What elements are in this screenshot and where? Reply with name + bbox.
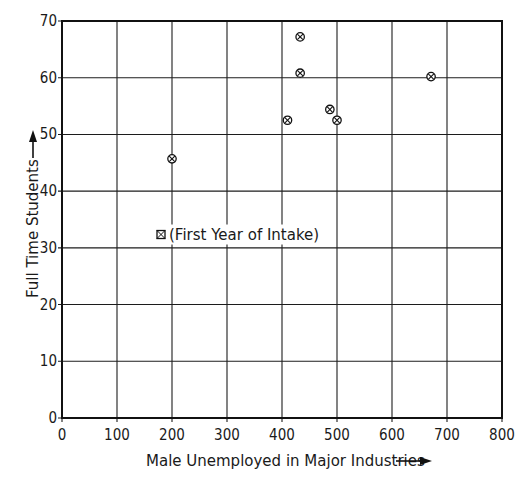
x-axis-ticks: 0100200300400500600700800 bbox=[58, 426, 515, 444]
x-tick-label: 0 bbox=[58, 426, 67, 444]
x-tick-label: 700 bbox=[434, 426, 460, 444]
grid-lines bbox=[58, 21, 502, 422]
circled-x-marker bbox=[333, 116, 341, 124]
y-tick-label: 0 bbox=[48, 409, 57, 427]
y-axis-ticks: 010203040506070 bbox=[40, 12, 57, 427]
legend-label: (First Year of Intake) bbox=[169, 226, 319, 244]
y-tick-label: 30 bbox=[40, 239, 57, 257]
circled-x-marker bbox=[296, 33, 304, 41]
x-axis-title: Male Unemployed in Major Industries bbox=[146, 452, 432, 470]
circled-x-marker bbox=[168, 155, 176, 163]
legend: (First Year of Intake) bbox=[155, 225, 319, 245]
data-points bbox=[168, 33, 435, 163]
y-tick-label: 60 bbox=[40, 69, 57, 87]
scatter-chart: 0100200300400500600700800 01020304050607… bbox=[0, 0, 527, 478]
circled-x-marker bbox=[326, 105, 334, 113]
y-tick-label: 20 bbox=[40, 296, 57, 314]
x-tick-label: 800 bbox=[489, 426, 515, 444]
x-tick-label: 300 bbox=[214, 426, 240, 444]
y-tick-label: 70 bbox=[40, 12, 57, 30]
x-tick-label: 200 bbox=[159, 426, 185, 444]
boxed-x-icon bbox=[157, 231, 165, 239]
x-tick-label: 600 bbox=[379, 426, 405, 444]
y-axis-label: Full Time Students bbox=[24, 159, 42, 298]
y-tick-label: 50 bbox=[40, 125, 57, 143]
circled-x-marker bbox=[296, 69, 304, 77]
circled-x-marker bbox=[427, 72, 435, 80]
y-tick-label: 40 bbox=[40, 182, 57, 200]
arrow-up-icon bbox=[29, 130, 37, 158]
x-tick-label: 400 bbox=[269, 426, 295, 444]
x-tick-label: 500 bbox=[324, 426, 350, 444]
y-tick-label: 10 bbox=[40, 352, 57, 370]
x-tick-label: 100 bbox=[104, 426, 130, 444]
x-axis-label: Male Unemployed in Major Industries bbox=[146, 452, 425, 470]
y-axis-title: Full Time Students bbox=[24, 130, 42, 298]
circled-x-marker bbox=[283, 116, 291, 124]
